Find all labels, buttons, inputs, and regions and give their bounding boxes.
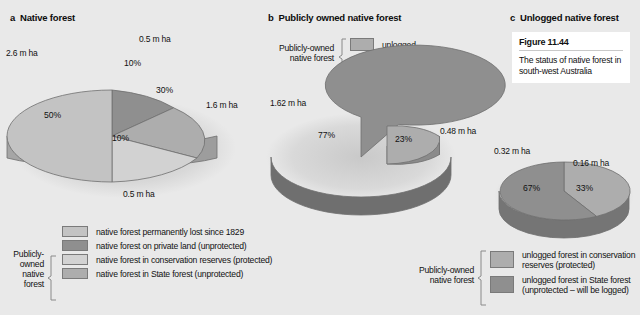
panel-c-legend-bracket-icon [477, 250, 487, 306]
figure-caption: The status of native forest in south-wes… [519, 55, 623, 76]
panel-b-label-right: 0.48 m ha [440, 126, 476, 136]
panel-c-pct-stateforest: 67% [523, 183, 540, 193]
panel-a-pct-lost: 50% [44, 110, 61, 120]
panel-c-legend-bracket-label: Publicly-owned native forest [392, 265, 474, 285]
legend-label-lost: native forest permanently lost since 182… [96, 227, 244, 237]
panel-a-title-text: Native forest [20, 12, 75, 23]
legend-item-reserves: native forest in conservation reserves (… [62, 254, 272, 265]
legend-swatch-private [62, 240, 88, 251]
panel-c-label-reserves: unlogged forest in conservationreserves … [522, 250, 638, 270]
legend-swatch-lost [62, 226, 88, 237]
panel-c-swatch-reserves [490, 251, 514, 268]
panel-a-title: aNative forest [10, 12, 75, 23]
panel-b-pie-svg [266, 100, 466, 210]
panel-c-legend-item-stateforest: unlogged forest in State forest(unprotec… [490, 275, 640, 295]
main-legend-bracket-icon [47, 255, 57, 301]
panel-c-letter: c [510, 12, 515, 23]
panel-a-pct-reserves: 10% [112, 133, 129, 143]
legend-swatch-reserves [62, 254, 88, 265]
panel-a-label-left: 2.6 m ha [6, 48, 37, 58]
figure-note-box: Figure 11.44 The status of native forest… [512, 32, 630, 83]
panel-b-bracket-line-1: native forest [258, 53, 334, 63]
panel-c-title-text: Unlogged native forest [520, 12, 619, 23]
panel-a-label-bottom: 0.5 m ha [123, 189, 154, 199]
legend-item-stateforest: native forest in State forest (unprotect… [62, 268, 272, 279]
legend-item-lost: native forest permanently lost since 182… [62, 226, 272, 237]
panel-c-bracket-line-0: Publicly-owned [392, 265, 474, 275]
panel-b-title-text: Publicly owned native forest [279, 12, 402, 23]
legend-label-stateforest: native forest in State forest (unprotect… [96, 269, 243, 279]
main-legend: native forest permanently lost since 182… [62, 226, 272, 282]
panel-b-letter: b [268, 12, 274, 23]
panel-a-pie-svg [2, 30, 242, 215]
panel-c-label-stateforest: unlogged forest in State forest(unprotec… [522, 275, 640, 295]
panel-c-bracket-line-1: native forest [392, 275, 474, 285]
main-legend-bracket-line-3: forest [0, 279, 44, 289]
figure-canvas: aNative forest [0, 0, 640, 315]
panel-b-pct-logged: 77% [318, 130, 335, 140]
panel-c-pie-chart [492, 150, 638, 240]
main-legend-bracket-label: Publicly- owned native forest [0, 249, 44, 290]
panel-b-swatch-unlogged [350, 38, 374, 51]
panel-a-label-top: 0.5 m ha [139, 34, 170, 44]
panel-a-pct-private: 10% [124, 58, 141, 68]
panel-c-swatch-stateforest [490, 276, 514, 293]
panel-c-pie-svg [492, 150, 638, 240]
panel-b-bracket-line-0: Publicly-owned [258, 43, 334, 53]
panel-c-label-right: 0.16 m ha [573, 158, 609, 168]
figure-number: Figure 11.44 [519, 37, 623, 51]
legend-label-private: native forest on private land (unprotect… [96, 241, 246, 251]
panel-c-legend: unlogged forest in conservationreserves … [490, 250, 640, 299]
panel-b-label-left: 1.62 m ha [270, 98, 306, 108]
panel-a-letter: a [10, 12, 15, 23]
panel-b-legend-bracket-label: Publicly-owned native forest [258, 43, 334, 63]
panel-a-pie-chart [2, 30, 242, 215]
panel-b-pie-chart [266, 100, 466, 210]
main-legend-bracket-line-0: Publicly- [0, 249, 44, 259]
panel-c-pct-reserves: 33% [576, 183, 593, 193]
panel-c-legend-item-reserves: unlogged forest in conservationreserves … [490, 250, 640, 270]
panel-c-title: cUnlogged native forest [510, 12, 619, 23]
panel-c-label-left: 0.32 m ha [494, 146, 530, 156]
legend-item-private: native forest on private land (unprotect… [62, 240, 272, 251]
legend-label-reserves: native forest in conservation reserves (… [96, 255, 272, 265]
panel-b-pct-unlogged: 23% [395, 134, 412, 144]
legend-swatch-stateforest [62, 268, 88, 279]
main-legend-bracket-line-2: native [0, 269, 44, 279]
panel-a-label-right: 1.6 m ha [206, 100, 237, 110]
main-legend-bracket-line-1: owned [0, 259, 44, 269]
panel-a-pct-state: 30% [156, 85, 173, 95]
panel-b-title: bPublicly owned native forest [268, 12, 401, 23]
